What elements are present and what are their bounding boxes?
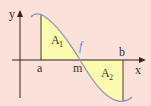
point-b-label: b <box>119 45 125 59</box>
y-axis-arrow-icon <box>17 10 23 17</box>
x-axis-label: x <box>135 63 141 77</box>
region-a1-subscript: 1 <box>59 40 63 49</box>
point-a-label: a <box>37 61 43 75</box>
area-under-curve-diagram: y x a m b f A 1 A 2 <box>0 0 151 106</box>
y-axis-label: y <box>9 7 15 21</box>
region-a2-subscript: 2 <box>109 73 113 82</box>
region-a1 <box>41 15 80 60</box>
point-m-label: m <box>73 61 83 75</box>
function-label: f <box>79 39 84 53</box>
